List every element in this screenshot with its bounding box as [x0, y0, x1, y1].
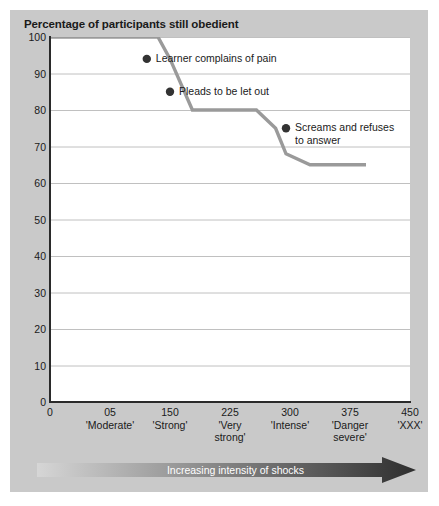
y-axis-line [49, 36, 51, 403]
y-tick-label: 60 [12, 178, 46, 189]
chart-title: Percentage of participants still obedien… [24, 18, 238, 30]
y-tick-label: 40 [12, 251, 46, 262]
y-tick-label: 50 [12, 215, 46, 226]
arrow-label: Increasing intensity of shocks [37, 457, 416, 483]
y-tick-label: 100 [12, 32, 46, 43]
x-tick-value: 450 [375, 406, 439, 419]
y-axis-ticks: 1009080706050403020100 [10, 10, 46, 492]
annotation-label: Pleads to be let out [179, 85, 269, 98]
chart-figure: Percentage of participants still obedien… [10, 10, 428, 492]
annotation-label: Learner complains of pain [156, 52, 277, 65]
y-tick-label: 80 [12, 105, 46, 116]
annotation-label: Screams and refuses to answer [295, 121, 394, 146]
y-tick-label: 30 [12, 288, 46, 299]
x-tick-label: 450'XXX' [375, 406, 439, 431]
y-tick-label: 70 [12, 142, 46, 153]
intensity-arrow: Increasing intensity of shocks [37, 457, 416, 483]
y-tick-label: 20 [12, 324, 46, 335]
y-tick-label: 90 [12, 69, 46, 80]
data-marker [143, 55, 151, 63]
data-marker [282, 124, 290, 132]
x-axis-line [49, 401, 411, 403]
x-tick-descriptor: 'XXX' [375, 419, 439, 432]
data-marker [166, 88, 174, 96]
y-tick-label: 10 [12, 361, 46, 372]
